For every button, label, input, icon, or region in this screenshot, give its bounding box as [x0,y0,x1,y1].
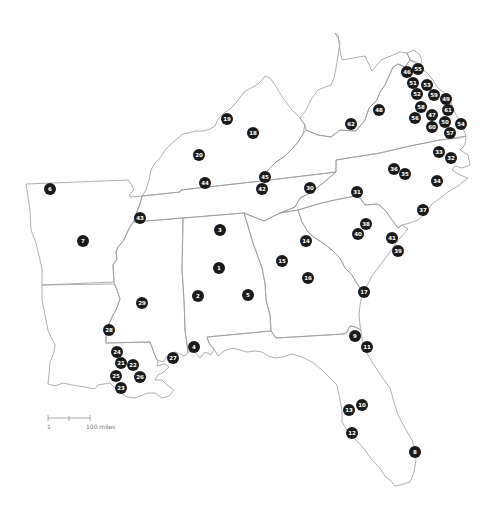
location-marker[interactable]: 53 [421,79,433,91]
marker-label: 44 [201,180,209,186]
location-marker[interactable]: 5 [242,289,254,301]
state-borders [26,33,470,486]
marker-label: 14 [302,238,310,244]
marker-label: 60 [428,124,436,130]
state-mississippi [106,218,188,362]
location-marker[interactable]: 27 [167,352,179,364]
location-marker[interactable]: 4 [188,341,200,353]
location-marker[interactable]: 9 [349,330,361,342]
location-marker[interactable]: 55 [412,63,424,75]
marker-label: 37 [419,207,427,213]
location-marker[interactable]: 48 [373,104,385,116]
location-marker[interactable]: 12 [346,427,358,439]
location-marker[interactable]: 40 [352,228,364,240]
southeast-us-map: 1 100 miles 1234567891011121314151617181… [0,0,494,511]
marker-label: 33 [435,149,443,155]
state-louisiana [42,284,174,398]
marker-label: 34 [433,178,441,184]
marker-label: 2 [196,293,200,299]
marker-label: 7 [81,238,85,244]
location-marker[interactable]: 39 [392,245,404,257]
marker-label: 42 [258,186,266,192]
marker-label: 43 [136,215,144,221]
location-marker[interactable]: 19 [221,113,233,125]
location-marker[interactable]: 50 [439,116,451,128]
location-marker[interactable]: 56 [409,112,421,124]
location-marker[interactable]: 32 [445,152,457,164]
location-marker[interactable]: 21 [115,357,127,369]
location-marker[interactable]: 37 [417,204,429,216]
marker-label: 53 [423,82,431,88]
location-marker[interactable]: 42 [256,183,268,195]
location-marker[interactable]: 22 [127,359,139,371]
marker-label: 22 [129,362,137,368]
location-marker[interactable]: 59 [428,89,440,101]
location-marker[interactable]: 52 [411,88,423,100]
marker-label: 57 [446,130,454,136]
state-kentucky [142,76,305,196]
location-marker[interactable]: 7 [77,235,89,247]
location-marker[interactable]: 25 [110,370,122,382]
location-marker[interactable]: 29 [136,297,148,309]
location-marker[interactable]: 62 [345,118,357,130]
marker-label: 58 [417,104,425,110]
location-marker[interactable]: 6 [44,183,56,195]
marker-label: 11 [363,344,371,350]
location-marker[interactable]: 1 [213,262,225,274]
location-marker[interactable]: 41 [386,232,398,244]
location-marker[interactable]: 26 [134,371,146,383]
location-marker[interactable]: 16 [302,272,314,284]
marker-label: 30 [306,185,314,191]
marker-label: 10 [358,402,366,408]
location-marker[interactable]: 31 [351,186,363,198]
location-marker[interactable]: 18 [247,127,259,139]
location-marker[interactable]: 45 [259,171,271,183]
location-marker[interactable]: 33 [433,146,445,158]
location-marker[interactable]: 34 [431,175,443,187]
location-marker[interactable]: 60 [426,121,438,133]
marker-label: 3 [218,227,222,233]
location-marker[interactable]: 61 [442,104,454,116]
location-marker[interactable]: 8 [409,446,421,458]
marker-label: 27 [169,355,177,361]
marker-label: 52 [413,91,421,97]
marker-label: 45 [261,174,269,180]
marker-label: 26 [136,374,144,380]
marker-label: 29 [138,300,146,306]
location-marker[interactable]: 43 [134,212,146,224]
marker-label: 62 [347,121,355,127]
location-marker[interactable]: 30 [304,182,316,194]
location-marker[interactable]: 10 [356,399,368,411]
location-marker[interactable]: 15 [276,255,288,267]
location-marker[interactable]: 47 [426,109,438,121]
location-marker[interactable]: 11 [361,341,373,353]
marker-label: 25 [112,373,120,379]
marker-label: 48 [375,107,383,113]
location-marker[interactable]: 23 [115,382,127,394]
location-marker[interactable]: 38 [360,218,372,230]
location-marker[interactable]: 51 [407,77,419,89]
marker-label: 41 [388,235,396,241]
location-marker[interactable]: 3 [214,224,226,236]
marker-label: 19 [223,116,231,122]
location-marker[interactable]: 35 [399,168,411,180]
location-marker[interactable]: 44 [199,177,211,189]
location-marker[interactable]: 49 [440,93,452,105]
scale-start-label: 1 [47,423,51,430]
location-marker[interactable]: 54 [455,118,467,130]
location-marker[interactable]: 17 [358,286,370,298]
location-marker[interactable]: 57 [444,127,456,139]
marker-label: 49 [442,96,450,102]
location-marker[interactable]: 24 [111,346,123,358]
location-marker[interactable]: 20 [193,149,205,161]
location-marker[interactable]: 36 [388,163,400,175]
location-marker[interactable]: 46 [401,66,413,78]
marker-label: 9 [353,333,357,339]
location-marker[interactable]: 2 [192,290,204,302]
marker-label: 35 [401,171,409,177]
location-marker[interactable]: 58 [415,101,427,113]
marker-label: 36 [390,166,398,172]
location-marker[interactable]: 14 [300,235,312,247]
location-marker[interactable]: 13 [343,404,355,416]
location-marker[interactable]: 28 [103,324,115,336]
